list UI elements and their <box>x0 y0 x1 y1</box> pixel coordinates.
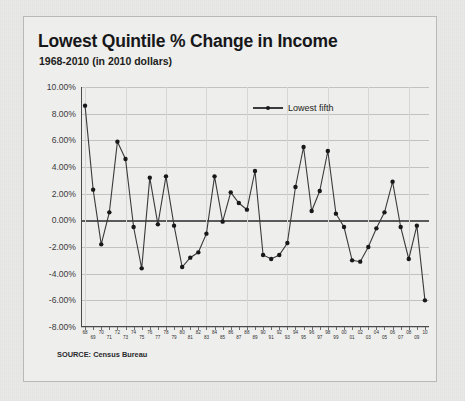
x-tick-label: 89 <box>252 335 257 340</box>
x-tick-label: 10 <box>422 330 427 335</box>
data-point <box>407 257 411 261</box>
data-point <box>83 103 87 107</box>
x-tick-label: 68 <box>82 330 87 335</box>
data-point <box>366 245 370 249</box>
data-point <box>140 266 144 270</box>
legend-label-lowest-fifth: Lowest fifth <box>288 103 334 113</box>
y-tick-label: -6.00% <box>49 295 76 305</box>
data-point <box>269 257 273 261</box>
data-point <box>172 223 176 227</box>
x-tick-label: 97 <box>317 335 322 340</box>
data-point <box>334 211 338 215</box>
data-point <box>156 222 160 226</box>
data-point <box>180 265 184 269</box>
data-point <box>293 185 297 189</box>
data-point <box>229 190 233 194</box>
x-tick-label: 01 <box>350 335 355 340</box>
chart-subtitle: 1968-2010 (in 2010 dollars) <box>39 55 172 67</box>
data-point <box>261 253 265 257</box>
chart-card: Lowest Quintile % Change in Income 1968-… <box>23 16 437 382</box>
x-tick-label: 93 <box>285 335 290 340</box>
x-tick-label: 05 <box>382 335 387 340</box>
x-tick-label: 98 <box>325 330 330 335</box>
x-tick-label: 71 <box>107 335 112 340</box>
x-tick-label: 04 <box>374 330 379 335</box>
x-tick-label: 81 <box>188 335 193 340</box>
x-tick-label: 96 <box>309 330 314 335</box>
x-tick-label: 90 <box>261 330 266 335</box>
x-tick <box>239 327 240 330</box>
x-tick-label: 88 <box>244 330 249 335</box>
data-point <box>374 226 378 230</box>
legend-marker-lowest-fifth <box>253 107 283 108</box>
data-point <box>188 255 192 259</box>
page-title: Lowest Quintile % Change in Income <box>38 31 337 52</box>
data-point <box>196 250 200 254</box>
data-point <box>285 241 289 245</box>
x-tick <box>368 327 369 330</box>
data-point <box>204 231 208 235</box>
x-tick-label: 91 <box>269 335 274 340</box>
x-tick-label: 72 <box>115 330 120 335</box>
data-point <box>277 253 281 257</box>
y-tick-label: -4.00% <box>49 269 76 279</box>
x-tick-label: 80 <box>180 330 185 335</box>
data-point <box>390 179 394 183</box>
series-lowest-fifth <box>81 87 429 327</box>
data-point <box>326 149 330 153</box>
data-point <box>423 298 427 302</box>
x-tick-label: 86 <box>228 330 233 335</box>
y-tick-label: 6.00% <box>52 135 76 145</box>
x-tick-label: 73 <box>123 335 128 340</box>
x-tick-label: 02 <box>358 330 363 335</box>
data-point <box>237 201 241 205</box>
x-tick-label: 87 <box>236 335 241 340</box>
plot-area: 10.00%8.00%6.00%4.00%2.00%0.00%-2.00%-4.… <box>81 87 429 327</box>
x-tick <box>174 327 175 330</box>
x-tick <box>190 327 191 330</box>
chart-legend: Lowest fifth <box>253 103 334 113</box>
x-tick <box>304 327 305 330</box>
x-tick-label: 76 <box>147 330 152 335</box>
data-point <box>164 174 168 178</box>
x-tick-label: 70 <box>99 330 104 335</box>
x-tick <box>271 327 272 330</box>
data-point <box>309 209 313 213</box>
data-point <box>318 189 322 193</box>
data-point <box>107 210 111 214</box>
x-tick-label: 74 <box>131 330 136 335</box>
data-point <box>220 219 224 223</box>
x-tick <box>223 327 224 330</box>
data-point <box>123 157 127 161</box>
x-tick-label: 94 <box>293 330 298 335</box>
source-note: SOURCE: Census Bureau <box>57 350 147 359</box>
x-tick <box>158 327 159 330</box>
series-line <box>85 106 425 301</box>
x-tick <box>255 327 256 330</box>
y-tick-label: -8.00% <box>49 322 76 332</box>
x-tick-label: 69 <box>91 335 96 340</box>
x-tick-label: 08 <box>406 330 411 335</box>
y-tick-label: 10.00% <box>47 82 76 92</box>
x-tick-label: 84 <box>212 330 217 335</box>
x-tick <box>401 327 402 330</box>
data-point <box>350 258 354 262</box>
x-tick <box>93 327 94 330</box>
x-tick-label: 77 <box>155 335 160 340</box>
x-tick-label: 79 <box>172 335 177 340</box>
x-tick-label: 85 <box>220 335 225 340</box>
x-tick-label: 78 <box>163 330 168 335</box>
data-point <box>91 187 95 191</box>
x-tick-label: 83 <box>204 335 209 340</box>
x-tick-label: 06 <box>390 330 395 335</box>
data-point <box>342 225 346 229</box>
x-tick <box>384 327 385 330</box>
y-tick-label: 0.00% <box>52 215 76 225</box>
y-tick-label: 8.00% <box>52 109 76 119</box>
data-point <box>148 175 152 179</box>
y-tick-label: -2.00% <box>49 242 76 252</box>
x-tick <box>320 327 321 330</box>
x-tick-label: 99 <box>333 335 338 340</box>
x-tick <box>206 327 207 330</box>
y-tick-label: 2.00% <box>52 189 76 199</box>
